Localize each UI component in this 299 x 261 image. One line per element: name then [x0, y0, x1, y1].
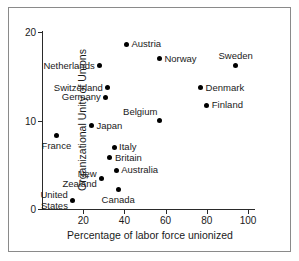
- point-label-france: France: [42, 141, 72, 152]
- data-point-france[interactable]: [54, 133, 59, 138]
- y-axis-title: Organizational Unity of Unions: [76, 49, 88, 191]
- x-tick-label-40: 40: [119, 215, 130, 226]
- point-label-japan: Japan: [96, 121, 122, 132]
- x-tick-60: [166, 210, 167, 214]
- point-label-britain: Britain: [115, 152, 142, 163]
- point-label-norway: Norway: [164, 53, 196, 64]
- x-tick-label-20: 20: [78, 215, 89, 226]
- y-tick-20: [38, 32, 42, 33]
- y-tick-label-20: 20: [25, 27, 36, 38]
- data-point-finland[interactable]: [204, 103, 209, 108]
- data-point-germany[interactable]: [103, 95, 108, 100]
- data-point-canada[interactable]: [116, 187, 121, 192]
- point-label-belgium: Belgium: [123, 106, 157, 117]
- x-tick-label-100: 100: [240, 215, 257, 226]
- y-axis-line: [42, 31, 43, 210]
- point-label-denmark: Denmark: [206, 83, 245, 94]
- data-point-switzerland[interactable]: [105, 85, 110, 90]
- y-tick-label-10: 10: [25, 115, 36, 126]
- x-axis-line: [42, 209, 255, 210]
- point-label-united-states: United States: [40, 190, 67, 211]
- data-point-netherlands[interactable]: [97, 63, 102, 68]
- data-point-sweden[interactable]: [233, 63, 238, 68]
- point-label-sweden: Sweden: [218, 50, 252, 61]
- x-axis-title: Percentage of labor force unionized: [67, 229, 233, 241]
- point-label-finland: Finland: [212, 100, 243, 111]
- data-point-austria[interactable]: [124, 42, 129, 47]
- data-point-britain[interactable]: [107, 155, 112, 160]
- data-point-new-zealand[interactable]: [99, 176, 104, 181]
- point-label-australia: Australia: [121, 165, 158, 176]
- data-point-australia[interactable]: [114, 168, 119, 173]
- x-tick-40: [124, 210, 125, 214]
- data-point-japan[interactable]: [89, 123, 94, 128]
- data-point-italy[interactable]: [112, 145, 117, 150]
- y-tick-10: [38, 121, 42, 122]
- data-point-denmark[interactable]: [198, 85, 203, 90]
- plot-area: 20406080100 01020 AustriaNorwaySwedenNet…: [0, 0, 299, 261]
- scatter-chart-figure: 20406080100 01020 AustriaNorwaySwedenNet…: [0, 0, 299, 261]
- x-tick-100: [248, 210, 249, 214]
- data-point-norway[interactable]: [157, 56, 162, 61]
- x-tick-label-80: 80: [201, 215, 212, 226]
- x-tick-80: [207, 210, 208, 214]
- point-label-austria: Austria: [131, 39, 161, 50]
- x-tick-20: [83, 210, 84, 214]
- point-label-canada: Canada: [102, 195, 135, 206]
- x-tick-label-60: 60: [160, 215, 171, 226]
- data-point-united-states[interactable]: [70, 198, 75, 203]
- y-tick-label-0: 0: [30, 204, 36, 215]
- data-point-belgium[interactable]: [157, 118, 162, 123]
